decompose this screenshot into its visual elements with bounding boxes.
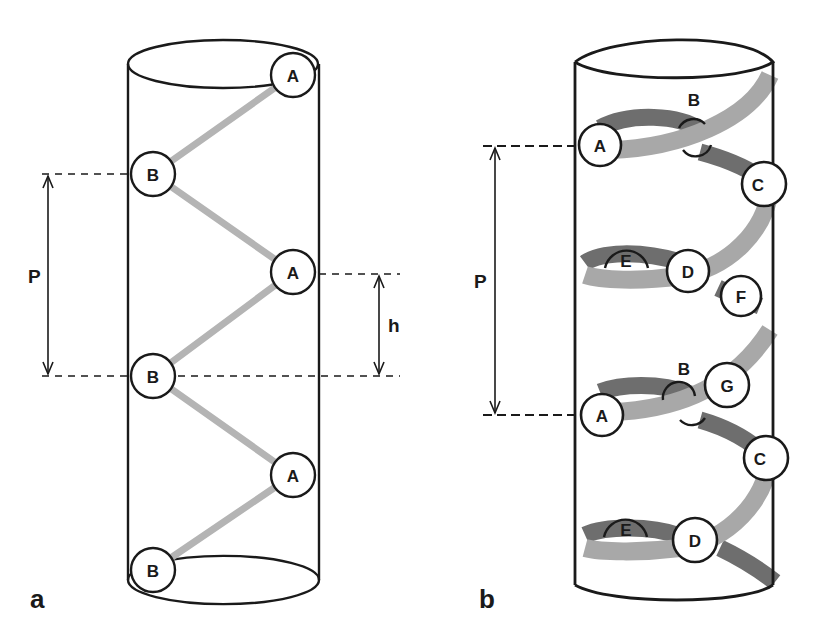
node-label: C: [752, 176, 764, 195]
pitch-label-a: P: [28, 266, 41, 287]
node-label: B: [688, 91, 700, 110]
panel-label-b: b: [479, 584, 495, 614]
node-label: C: [754, 450, 766, 469]
rise-label-a: h: [388, 315, 400, 336]
node-label: A: [287, 264, 299, 283]
node-label: B: [147, 368, 159, 387]
node-label: B: [147, 166, 159, 185]
node-label: B: [678, 360, 690, 379]
figure-canvas: A B A B A B P h a: [0, 0, 821, 639]
node-label: D: [689, 532, 701, 551]
pitch-label-b: P: [474, 271, 487, 292]
helix-figure: A B A B A B P h a: [0, 0, 821, 639]
links-a: [153, 75, 293, 570]
partial-nodes-b: [604, 119, 711, 537]
panel-b: A B C E D F A B G C E D P b: [474, 40, 788, 614]
node-label: E: [620, 252, 631, 271]
node-label: B: [147, 562, 159, 581]
dimension-lines-a: [42, 174, 400, 376]
panel-a: A B A B A B P h a: [28, 40, 400, 614]
node-label: G: [720, 377, 733, 396]
dimension-lines-b: [483, 146, 577, 415]
node-label: A: [594, 137, 606, 156]
node-label: A: [596, 407, 608, 426]
node-label: D: [682, 263, 694, 282]
node-label: E: [620, 521, 631, 540]
panel-label-a: a: [30, 584, 45, 614]
node-label: F: [736, 288, 746, 307]
node-label: A: [287, 467, 299, 486]
node-label: A: [287, 67, 299, 86]
